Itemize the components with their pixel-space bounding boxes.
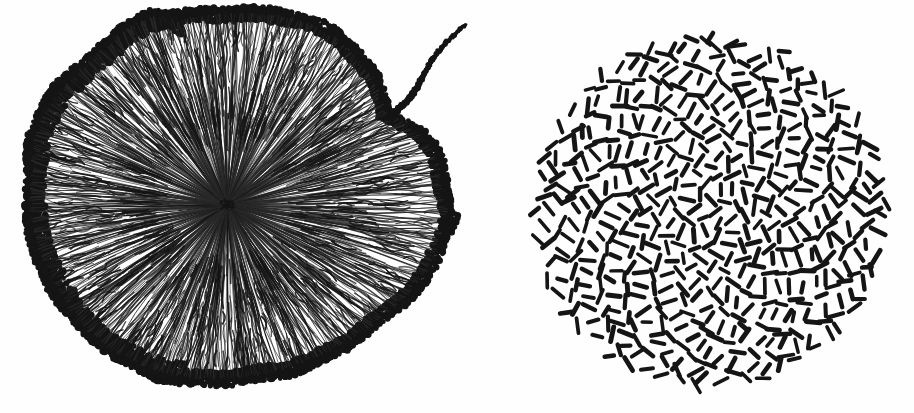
- illustration-plate: Radial fibrous structure and dash-field …: [0, 0, 914, 413]
- illustration-canvas: [0, 0, 914, 413]
